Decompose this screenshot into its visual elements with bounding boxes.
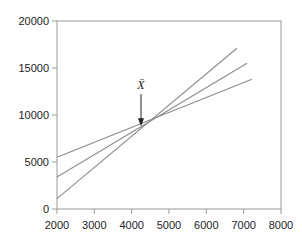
y-tick-label: 0: [43, 203, 49, 215]
y-tick-label: 10000: [18, 109, 49, 121]
y-tick-label: 15000: [18, 62, 49, 74]
line-chart: 05000100001500020000 2000300040005000600…: [0, 0, 302, 246]
plot-frame: [57, 21, 281, 209]
data-lines: [57, 48, 252, 198]
x-tick-label: 4000: [119, 219, 143, 231]
y-axis: 05000100001500020000: [18, 15, 57, 215]
x-tick-label: 6000: [194, 219, 218, 231]
x-tick-label: 5000: [157, 219, 181, 231]
series-line: [57, 79, 252, 157]
series-line: [57, 63, 247, 177]
x-tick-label: 8000: [269, 219, 293, 231]
plot-border: [57, 21, 281, 209]
x-tick-label: 3000: [82, 219, 106, 231]
x-bar-label: X̄: [136, 78, 145, 92]
y-tick-label: 20000: [18, 15, 49, 27]
x-axis: 2000300040005000600070008000: [45, 209, 293, 231]
x-tick-label: 2000: [45, 219, 69, 231]
y-tick-label: 5000: [25, 156, 49, 168]
x-tick-label: 7000: [231, 219, 255, 231]
mean-annotation: X̄: [136, 78, 145, 126]
